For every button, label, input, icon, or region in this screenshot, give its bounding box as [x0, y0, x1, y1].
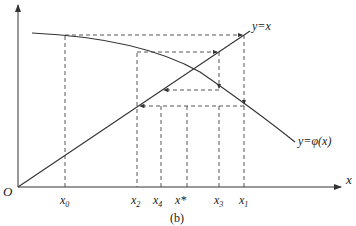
tick-labels: x0 x2 x4 x* x3 x1	[59, 193, 248, 209]
tick-label-x0: x0	[59, 193, 69, 209]
origin-label: O	[3, 184, 13, 199]
line-label: y=x	[251, 19, 271, 33]
tick-label-x4: x4	[152, 193, 162, 209]
figure-caption: (b)	[170, 211, 184, 225]
fixed-point-diagram: O x y=x y=φ(x) x0 x2 x4 x* x3 x1 (b)	[0, 0, 356, 226]
tick-label-xstar: x*	[174, 193, 186, 207]
phi-curve	[32, 33, 295, 142]
identity-line	[18, 31, 250, 187]
tick-label-x1: x1	[238, 193, 248, 209]
tick-label-x2: x2	[130, 193, 140, 209]
curve-label: y=φ(x)	[297, 134, 331, 148]
tick-label-x3: x3	[213, 193, 223, 209]
x-axis-label: x	[345, 172, 352, 187]
